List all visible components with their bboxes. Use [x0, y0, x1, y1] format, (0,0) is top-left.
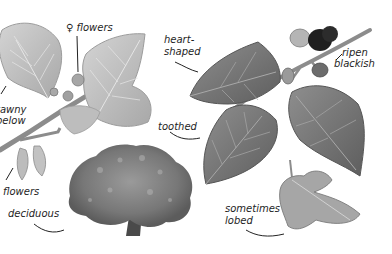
- mulberry-illustration: ♀ flowers tawny below flowers deciduous …: [0, 0, 392, 254]
- label-tawny-line1: tawny: [0, 104, 26, 115]
- label-ripen-line2: blackish: [334, 58, 375, 69]
- label-heart-line1: heart-: [164, 34, 194, 45]
- label-toothed: toothed: [158, 121, 197, 132]
- label-deciduous: deciduous: [8, 208, 59, 219]
- label-lobed-line1: sometimes: [225, 203, 280, 214]
- tree-silhouette: [69, 144, 193, 236]
- label-heart-line2: shaped: [164, 46, 201, 57]
- label-lobed-line2: lobed: [225, 215, 253, 226]
- label-female-flowers: ♀ flowers: [66, 22, 113, 33]
- lobed-leaf: [280, 160, 360, 229]
- label-flowers: flowers: [3, 186, 39, 197]
- label-ripen-line1: ripen: [342, 47, 368, 58]
- label-tawny-line2: below: [0, 115, 26, 126]
